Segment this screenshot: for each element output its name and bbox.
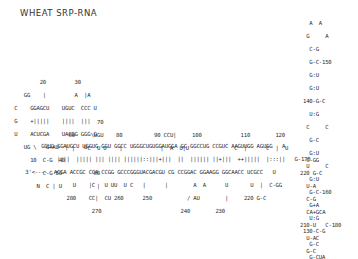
right-arm-line-5: G:U [303,85,332,92]
right-arm-line-9: G-C [303,137,332,144]
lower-arm-line-0: C-GG [300,157,341,164]
main-helix-labels-2: 270 240 230 [0,208,310,215]
main-helix: GGUG GGAUGCU UGGUG GGU GGCC UGGGCUGUGGAU… [0,136,310,221]
right-arm-line-6: 140-G-C [303,98,332,105]
right-arm-line-7: U:G [303,111,332,118]
lower-arm-line-7: G-C [300,248,341,255]
lower-arm-line-5: 210-U C-180 [300,222,341,229]
right-arm-line-2: C-G [303,46,332,53]
right-arm-lower: C-GG 220 G-C U-A C-G CA+GCA 210-U C-180 … [300,150,341,259]
main-helix-labels-1: 280 CC| CU 260 250 / AU | 220 G-C [0,195,310,202]
main-helix-bottom-strand: 3'<---- ACGA ACCGC CCA CCGG GCCCGGGUACGA… [0,169,310,176]
lower-arm-line-2: U-A [300,183,341,190]
figure-title: WHEAT SRP-RNA [20,8,97,18]
lower-arm-line-4: CA+GCA [300,209,341,216]
lower-arm-line-3: C-G [300,196,341,203]
main-helix-pairing: |||| ||||| ||| |||| ||||||::|||+||| || |… [0,156,310,163]
right-arm-line-1: G A [303,33,332,40]
right-arm-line-4: G:U [303,72,332,79]
right-arm-line-8: C C [303,124,332,131]
right-arm-line-3: G-C-150 [303,59,332,66]
left-line-1: GG | A |A [8,92,100,99]
lower-arm-line-1: 220 G-C [300,170,341,177]
main-helix-bulges: U |C U UU U C | | A A U U | C-GG [0,182,310,189]
left-line-2: C GGAGCU UGUC CCC U [8,105,100,112]
right-arm-line-0: A A [303,20,332,27]
main-helix-top-strand: GGUG GGAUGCU UGGUG GGU GGCC UGGGCUGUGGAU… [0,143,310,150]
lower-arm-line-6: U-AC [300,235,341,242]
left-line-0: 20 30 [8,79,100,86]
